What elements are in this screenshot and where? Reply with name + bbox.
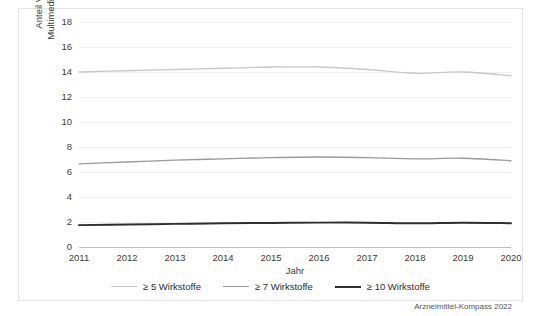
x-axis-tick-label: 2011 xyxy=(69,253,89,263)
legend-line-swatch xyxy=(111,286,137,287)
x-axis-tick-label: 2016 xyxy=(308,253,329,263)
x-axis-title: Jahr xyxy=(79,265,511,276)
y-axis-tick-label: 16 xyxy=(61,42,72,52)
y-axis-tick-label: 8 xyxy=(67,142,72,152)
series-line xyxy=(79,67,511,76)
y-axis-tick-label: 18 xyxy=(61,17,72,27)
chart-legend: ≥ 5 Wirkstoffe≥ 7 Wirkstoffe≥ 10 Wirksto… xyxy=(19,281,522,292)
legend-label: ≥ 10 Wirkstoffe xyxy=(367,281,430,292)
x-axis-tick-label: 2013 xyxy=(164,253,185,263)
legend-line-swatch xyxy=(335,286,361,288)
x-axis-tick-label: 2018 xyxy=(404,253,425,263)
y-axis-title: Anteil Versicherte mit Multimedikation i… xyxy=(33,0,57,59)
legend-label: ≥ 5 Wirkstoffe xyxy=(143,281,201,292)
legend-item[interactable]: ≥ 5 Wirkstoffe xyxy=(111,281,201,292)
y-axis-tick-label: 0 xyxy=(67,242,72,252)
chart-figure: Anteil Versicherte mit Multimedikation i… xyxy=(18,8,523,301)
series-lines xyxy=(79,22,511,247)
y-axis-tick-label: 6 xyxy=(67,167,72,177)
legend-item[interactable]: ≥ 7 Wirkstoffe xyxy=(223,281,313,292)
plot-area: 024681012141618 201120122013201420152016… xyxy=(79,22,511,247)
y-axis-tick-label: 12 xyxy=(61,92,72,102)
y-axis-tick-label: 2 xyxy=(67,217,72,227)
x-axis-tick-label: 2012 xyxy=(116,253,137,263)
legend-label: ≥ 7 Wirkstoffe xyxy=(255,281,313,292)
x-axis-tick-label: 2014 xyxy=(212,253,233,263)
x-axis-baseline xyxy=(79,247,511,248)
series-line xyxy=(79,157,511,164)
series-line xyxy=(79,223,511,226)
x-axis-tick-label: 2019 xyxy=(452,253,473,263)
y-axis-tick-label: 14 xyxy=(61,67,72,77)
legend-item[interactable]: ≥ 10 Wirkstoffe xyxy=(335,281,430,292)
y-axis-title-line-1: Anteil Versicherte mit xyxy=(33,0,45,59)
y-axis-tick-label: 4 xyxy=(67,192,72,202)
source-credit: Arzneimittel-Kompass 2022 xyxy=(414,302,512,311)
y-axis-title-line-2: Multimedikation in Prozent xyxy=(45,0,57,59)
y-axis-tick-label: 10 xyxy=(61,117,72,127)
x-axis-tick-label: 2015 xyxy=(260,253,281,263)
x-axis-tick-label: 2020 xyxy=(500,253,521,263)
x-axis-tick-label: 2017 xyxy=(356,253,377,263)
legend-line-swatch xyxy=(223,286,249,287)
